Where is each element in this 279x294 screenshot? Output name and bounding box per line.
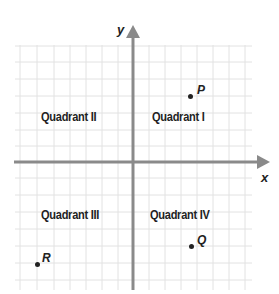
- coordinate-plane: y x Quadrant II Quadrant I Quadrant III …: [0, 0, 279, 294]
- quadrant-iii-label: Quadrant III: [41, 208, 99, 222]
- point-q-label: Q: [197, 233, 206, 247]
- y-axis-label: y: [117, 22, 124, 37]
- x-axis: [14, 155, 270, 169]
- quadrant-ii-label: Quadrant II: [41, 110, 96, 124]
- point-q-dot: [189, 244, 194, 249]
- y-axis-arrow-icon: [126, 25, 140, 38]
- grid-and-axes: [0, 0, 279, 294]
- point-p-label: P: [197, 83, 205, 97]
- y-axis: [126, 25, 140, 290]
- quadrant-iv-label: Quadrant IV: [150, 208, 210, 222]
- point-r-label: R: [42, 251, 51, 265]
- x-axis-arrow-icon: [257, 155, 270, 169]
- quadrant-i-label: Quadrant I: [152, 110, 204, 124]
- point-p-dot: [188, 94, 193, 99]
- x-axis-label: x: [261, 170, 268, 185]
- point-r-dot: [35, 262, 40, 267]
